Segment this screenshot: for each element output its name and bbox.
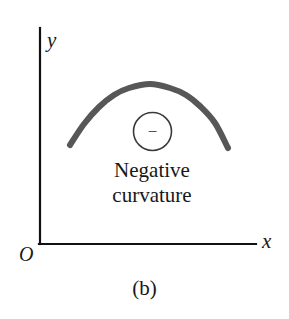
origin-label: O <box>19 244 33 264</box>
x-axis-label: x <box>262 231 271 252</box>
figure-negative-curvature: − y x O Negative curvature (b) <box>0 0 289 319</box>
negative-curvature-arc <box>70 84 228 148</box>
figure-caption: (b) <box>0 276 289 301</box>
annotation-line-2: curvature <box>65 183 239 208</box>
minus-sign-badge-circle <box>134 113 172 151</box>
y-axis-label: y <box>47 30 56 51</box>
annotation-line-1: Negative <box>65 158 239 183</box>
curvature-annotation: Negative curvature <box>65 158 239 208</box>
